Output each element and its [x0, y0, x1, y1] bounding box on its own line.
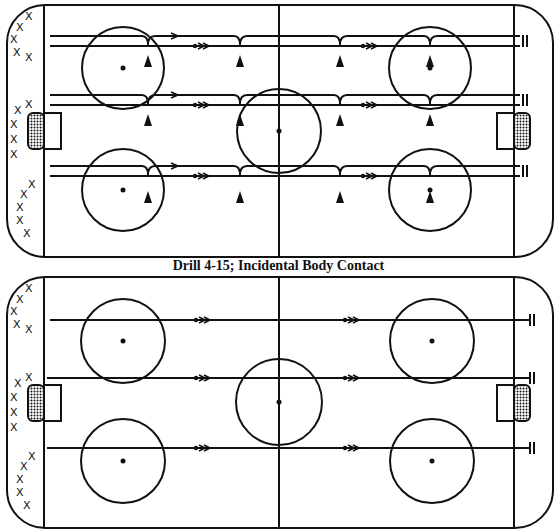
svg-text:X: X: [10, 133, 18, 146]
svg-text:X: X: [10, 421, 18, 434]
svg-text:X: X: [10, 391, 18, 404]
svg-text:X: X: [16, 473, 24, 486]
svg-text:X: X: [25, 51, 33, 64]
svg-text:X: X: [25, 98, 33, 111]
svg-text:X: X: [14, 104, 22, 117]
goal-net: [514, 385, 530, 421]
svg-text:X: X: [13, 318, 21, 331]
svg-text:X: X: [23, 227, 31, 240]
goal-net: [28, 113, 44, 149]
goal-net: [28, 385, 44, 421]
svg-text:X: X: [10, 148, 18, 161]
goal-crease: [497, 113, 514, 149]
goal-crease: [44, 385, 61, 421]
goal-crease: [44, 113, 61, 149]
diagram-caption: Drill 4-15; Incidental Body Contact: [0, 256, 557, 276]
svg-text:X: X: [13, 46, 21, 59]
svg-text:X: X: [25, 371, 33, 384]
svg-text:X: X: [16, 201, 24, 214]
svg-text:X: X: [28, 178, 36, 191]
svg-text:X: X: [10, 33, 18, 46]
goal-crease: [497, 385, 514, 421]
svg-text:X: X: [10, 305, 18, 318]
svg-text:X: X: [25, 323, 33, 336]
goal-net: [514, 113, 530, 149]
bottom-rink-arrows: [194, 314, 534, 454]
svg-text:X: X: [20, 188, 28, 201]
svg-text:X: X: [20, 460, 28, 473]
svg-text:X: X: [25, 10, 33, 23]
svg-text:X: X: [16, 486, 24, 499]
svg-text:X: X: [10, 118, 18, 131]
svg-text:X: X: [10, 406, 18, 419]
svg-text:X: X: [25, 282, 33, 295]
svg-text:X: X: [23, 499, 31, 512]
svg-text:X: X: [28, 450, 36, 463]
svg-text:X: X: [14, 377, 22, 390]
svg-text:X: X: [16, 214, 24, 227]
